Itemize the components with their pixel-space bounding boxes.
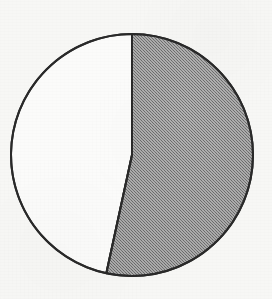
pie-chart-svg bbox=[0, 0, 272, 299]
pie-chart-figure bbox=[0, 0, 272, 299]
